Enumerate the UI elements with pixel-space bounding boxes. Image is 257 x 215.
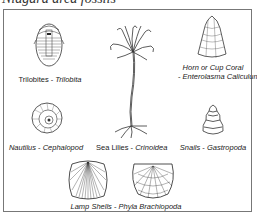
nautilus-label: Nautilus - Cephalopod [8,143,84,152]
horn-coral-icon [194,14,230,60]
nautilus-icon [30,100,64,136]
page-title: Niagara area fossils [2,0,116,7]
trilobite-label: Trilobites - Trilobita [18,75,82,84]
snail-icon [200,103,226,137]
lamp-shell-label: Lamp Shells - Phyla Brachiopoda [66,202,186,211]
sea-lily-icon [103,22,163,140]
lamp-shell-icon [68,160,178,200]
horn-coral-label: Horn or Cup Coral - Enterolasma Caliculu… [178,63,248,81]
trilobite-icon [33,22,65,68]
snail-label: Snails - Gastropoda [176,143,250,152]
sea-lily-label: Sea Lilies - Crinoidea [96,143,166,152]
